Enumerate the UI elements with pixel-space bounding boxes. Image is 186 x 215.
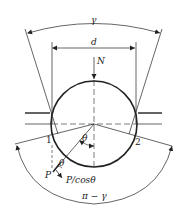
- point-2-label: 2: [135, 137, 141, 147]
- theta-center-label: θ: [82, 133, 88, 143]
- theta-small-label: θ: [59, 158, 65, 168]
- normal-force-label: N: [96, 56, 106, 66]
- pi-minus-gamma-label: π − γ: [81, 191, 107, 201]
- roller-groove-diagram: γ d N θ 1 2 θ P P/cosθ π − γ: [0, 0, 186, 215]
- force-p-label: P: [44, 170, 52, 180]
- gamma-boundary-left: [25, 29, 58, 134]
- gamma-label: γ: [91, 15, 97, 25]
- point-1-label: 1: [46, 135, 52, 145]
- diameter-label: d: [91, 37, 97, 47]
- p-over-cos-label: P/cosθ: [65, 175, 96, 185]
- gamma-boundary-right: [129, 29, 162, 134]
- p-cos-arrow: [56, 170, 62, 178]
